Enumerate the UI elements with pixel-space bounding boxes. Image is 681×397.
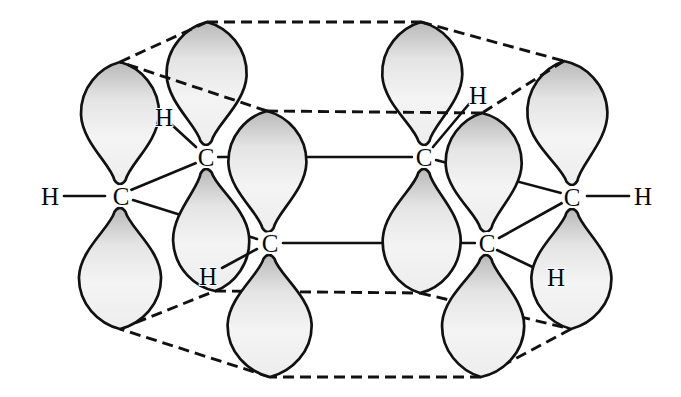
hydrogen-label-2: H — [155, 104, 173, 131]
bond-c1-c2 — [131, 163, 196, 190]
carbon-label-6: C — [262, 230, 279, 257]
hydrogen-label-1: H — [41, 183, 59, 210]
p-orbital-upper-lobe-c1 — [81, 62, 159, 184]
carbon-label-1: C — [113, 183, 130, 210]
diagram-canvas: C C C C C C H H H H H H — [0, 0, 681, 397]
carbon-label-2: C — [198, 144, 215, 171]
p-orbital-lower-lobe-c3 — [383, 169, 461, 293]
carbon-label-5: C — [479, 230, 496, 257]
top-dashed-edge-frontright-frontleft — [267, 111, 482, 113]
p-orbital-upper-lobe-c4 — [527, 61, 607, 185]
hydrogen-label-4: H — [634, 183, 652, 210]
carbon-label-3: C — [416, 144, 433, 171]
p-orbital-lobes — [79, 22, 611, 377]
p-orbital-lower-lobe-c5 — [442, 255, 524, 377]
hydrogen-label-5: H — [547, 264, 565, 291]
p-orbital-lower-lobe-c4 — [531, 209, 611, 329]
hydrogen-label-6: H — [199, 263, 217, 290]
p-orbital-upper-lobe-c2 — [167, 22, 247, 145]
hydrogen-label-3: H — [469, 82, 487, 109]
p-orbital-lower-lobe-c1 — [79, 208, 161, 329]
p-orbital-upper-lobe-c5 — [446, 113, 522, 232]
benzene-p-orbital-diagram: C C C C C C H H H H H H — [0, 0, 681, 397]
carbon-label-4: C — [564, 184, 581, 211]
